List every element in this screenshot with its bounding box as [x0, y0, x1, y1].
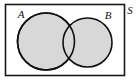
set-a-label: A — [17, 8, 25, 20]
universal-set-label: S — [127, 4, 133, 16]
venn-diagram-canvas: A B S — [0, 0, 139, 83]
set-b-label: B — [105, 9, 112, 21]
venn-diagram-figure: A B S — [0, 0, 139, 83]
